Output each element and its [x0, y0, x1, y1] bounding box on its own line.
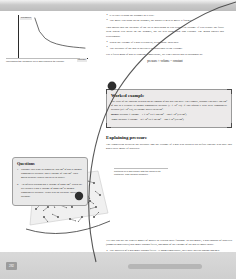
list-item: An inflated balloon has a volume of 2000… — [17, 183, 83, 200]
list-item: Suppose you want to compress 300 cm³ of … — [17, 168, 83, 181]
corner-bracket-icon — [106, 89, 111, 94]
pressure-volume-chart: pressure volume — [18, 15, 88, 63]
worked-example-box: Worked example The value of the constant… — [106, 89, 232, 128]
kinetic-model-paragraph: Yet you can use the kinetic model of mat… — [106, 239, 232, 247]
document-viewer: pressure volume Increasing the pressure … — [0, 0, 236, 279]
questions-title: Questions — [17, 161, 83, 166]
worked-example-title: Worked example — [111, 93, 227, 98]
corner-bracket-icon — [227, 89, 232, 94]
before-value: pressure × volume = 1 × 10⁵ Pa × 100 cm³… — [120, 113, 186, 116]
figure-caption: Increasing the pressure on a gas reduces… — [6, 58, 80, 64]
paragraph-fixed-mass: For a fixed mass of gas at constant temp… — [106, 52, 224, 56]
boyles-law-equation: pressure × volume = constant — [106, 59, 224, 63]
before-label: Before: — [111, 113, 119, 116]
list-item: When the volume of a gas is reduced, its… — [106, 40, 224, 44]
list-item: The more you push on the plunger, the ha… — [106, 18, 224, 22]
worked-example-after: After: pressure × volume = 2 × 10⁵ Pa × … — [111, 118, 227, 122]
after-label: After: — [111, 118, 118, 121]
chart-curve — [18, 15, 88, 59]
page-number-badge: 282 — [6, 262, 17, 270]
list-item: It is easy to push the plunger in a litt… — [106, 13, 224, 17]
corner-bracket-icon — [106, 123, 111, 128]
corner-bracket-icon — [227, 123, 232, 128]
horizontal-scrollbar[interactable] — [128, 264, 202, 269]
diagram-caption: Particles of a gas collide with the wall… — [114, 168, 168, 177]
document-page: pressure volume Increasing the pressure … — [6, 11, 230, 252]
questions-box: Questions Suppose you want to compress 3… — [12, 157, 88, 206]
section-heading: Explaining pressure — [106, 135, 232, 140]
worked-example-before: Before: pressure × volume = 1 × 10⁵ Pa ×… — [111, 113, 227, 117]
list-item: The pressure of the gas is inversely pro… — [106, 46, 224, 50]
worked-example-body: The value of the constant depends on the… — [111, 100, 227, 112]
explaining-pressure-section: Explaining pressure The connection betwe… — [106, 135, 232, 153]
relationship-bullet-list: When the volume of a gas is reduced, its… — [106, 40, 224, 50]
paragraph-pressure-increase: This shows that the pressure of the air … — [106, 25, 224, 38]
viewer-top-bar — [0, 0, 236, 11]
questions-list: Suppose you want to compress 300 cm³ of … — [17, 168, 83, 199]
main-text-column: It is easy to push the plunger in a litt… — [106, 13, 224, 65]
after-value: pressure × volume = 2 × 10⁵ Pa × 50 cm³ … — [118, 118, 183, 121]
section-body: The connection between the pressure and … — [106, 142, 232, 151]
intro-bullet-list: It is easy to push the plunger in a litt… — [106, 13, 224, 23]
